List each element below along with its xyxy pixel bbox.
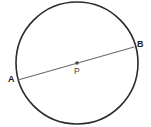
circle-diagram-svg: A B P: [0, 0, 151, 127]
point-label-p: P: [74, 66, 80, 76]
center-point-P-marker: [75, 61, 79, 65]
point-label-a: A: [8, 74, 15, 84]
geometry-figure-circle: A B P: [0, 0, 151, 127]
point-label-b: B: [137, 39, 144, 49]
